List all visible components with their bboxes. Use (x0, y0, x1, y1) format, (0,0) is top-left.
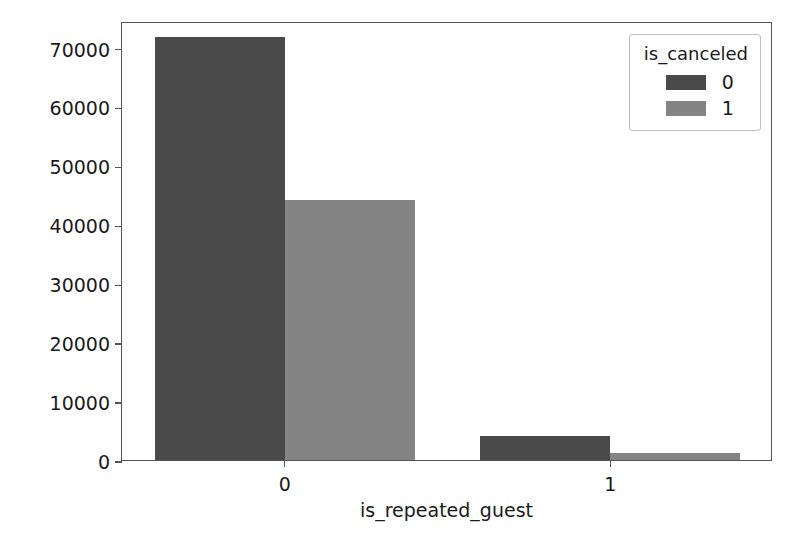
legend-item-label: 1 (722, 96, 734, 120)
legend-item-0: 0 (642, 69, 748, 95)
legend: is_canceled 01 (629, 34, 761, 131)
legend-entries: 01 (642, 69, 748, 121)
y-tick-mark (115, 285, 122, 286)
y-tick-mark (115, 226, 122, 227)
y-tick-mark (115, 343, 122, 344)
x-tick-mark (284, 460, 285, 467)
y-tick-label: 40000 (50, 214, 110, 238)
y-tick-label: 20000 (50, 332, 110, 356)
y-tick-label: 70000 (50, 38, 110, 62)
y-tick-label: 10000 (50, 391, 110, 415)
legend-item-label: 0 (722, 70, 734, 94)
y-tick-mark (115, 402, 122, 403)
y-tick-mark (115, 108, 122, 109)
x-tick-mark (610, 460, 611, 467)
legend-swatch-icon (666, 101, 706, 116)
legend-swatch-icon (666, 75, 706, 90)
plot-axes: 010000200003000040000500006000070000 01 … (121, 22, 772, 461)
y-tick-label: 60000 (50, 96, 110, 120)
y-tick-label: 30000 (50, 273, 110, 297)
legend-title: is_canceled (642, 42, 748, 65)
y-tick-mark (115, 49, 122, 50)
y-tick-mark (115, 461, 122, 462)
x-tick-label: 1 (550, 472, 670, 496)
x-axis-label: is_repeated_guest (121, 498, 772, 522)
bar-1-series-1 (610, 453, 740, 460)
legend-item-1: 1 (642, 95, 748, 121)
x-tick-label: 0 (225, 472, 345, 496)
bar-0-series-0 (155, 37, 285, 460)
y-tick-mark (115, 167, 122, 168)
y-tick-label: 0 (98, 450, 110, 474)
bar-1-series-0 (480, 436, 610, 460)
bar-0-series-1 (285, 200, 415, 460)
figure-canvas: 010000200003000040000500006000070000 01 … (0, 0, 796, 548)
y-tick-label: 50000 (50, 155, 110, 179)
